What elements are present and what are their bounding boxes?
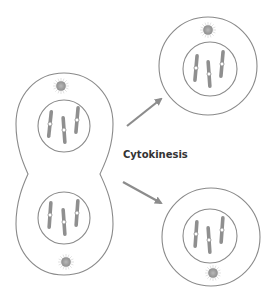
chromosome-icon — [219, 216, 225, 244]
chromosome-icon — [193, 54, 199, 82]
lower-nucleus — [38, 192, 90, 244]
centrosome-icon — [205, 265, 221, 281]
centrosome-icon — [53, 78, 69, 94]
chromosome-icon — [219, 50, 225, 78]
parent-cell-membrane — [16, 73, 113, 275]
centrosome-icon — [200, 22, 216, 38]
arrow-to-top-icon — [127, 99, 161, 126]
daughter-cell-bottom — [162, 188, 260, 286]
chromosome-icon — [206, 226, 212, 254]
parent-cell — [16, 73, 113, 275]
chromosome-icon — [206, 60, 212, 88]
chromosome-icon — [47, 110, 54, 138]
centrosome-icon — [58, 254, 74, 270]
chromosome-icon — [47, 201, 53, 229]
chromosome-icon — [61, 116, 67, 144]
chromosome-icon — [61, 208, 67, 236]
daughter-cell-top — [159, 17, 257, 115]
arrow-to-bottom-icon — [123, 182, 161, 203]
chromosome-icon — [74, 199, 80, 227]
upper-nucleus — [38, 100, 90, 152]
chromosome-icon — [74, 106, 80, 134]
chromosome-icon — [193, 220, 199, 248]
cytokinesis-label: Cytokinesis — [123, 149, 188, 160]
